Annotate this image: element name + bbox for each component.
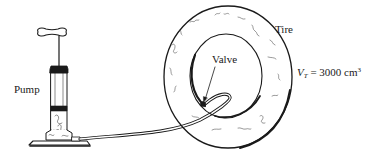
volume-unit: cm — [344, 66, 357, 78]
pump-label: Pump — [14, 84, 40, 95]
volume-subscript: T — [304, 72, 308, 80]
tire-label: Tire — [275, 24, 293, 35]
valve-label: Valve — [212, 54, 237, 65]
pump-tire-diagram: Pump Tire Valve VT = 3000 cm3 — [0, 0, 373, 159]
hose-icon — [80, 94, 230, 139]
volume-value: 3000 — [319, 66, 341, 78]
volume-symbol: V — [297, 66, 304, 78]
tire-volume-annotation: VT = 3000 cm3 — [297, 67, 361, 80]
volume-unit-exponent: 3 — [358, 66, 362, 74]
equals-sign: = — [310, 66, 316, 78]
